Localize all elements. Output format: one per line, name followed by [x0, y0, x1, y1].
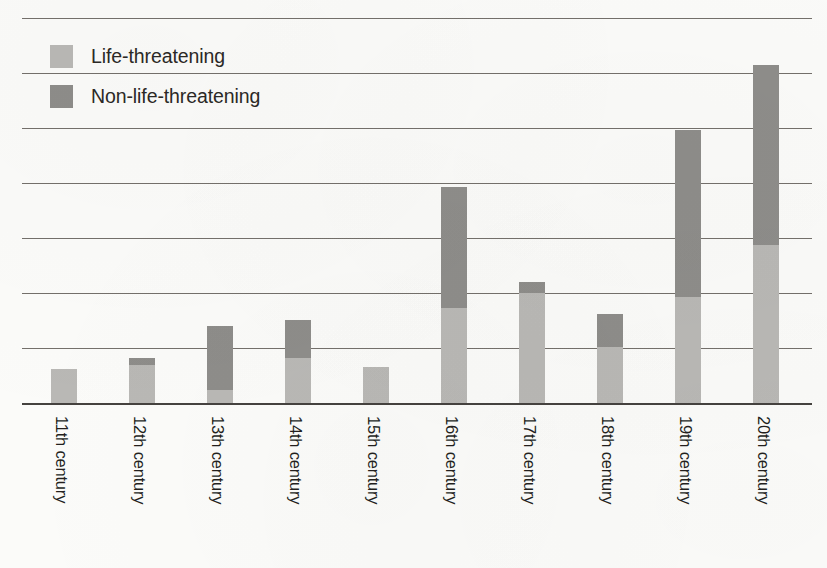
x-tick-label-19th-century: 19th century — [676, 416, 695, 504]
bar-15th-century[interactable] — [363, 367, 389, 403]
legend-item-label: Non-life-threatening — [91, 85, 260, 108]
bar-segment-life-threatening — [51, 369, 77, 403]
bar-segment-life-threatening — [597, 347, 623, 403]
x-tick-label-15th-century: 15th century — [364, 416, 383, 504]
bar-13th-century[interactable] — [207, 326, 233, 403]
x-tick-label-13th-century: 13th century — [208, 416, 227, 504]
bar-17th-century[interactable] — [519, 282, 545, 403]
bar-segment-life-threatening — [441, 308, 467, 403]
gridline — [22, 18, 812, 19]
bar-segment-non-life-threatening — [207, 326, 233, 390]
x-tick-label-16th-century: 16th century — [442, 416, 461, 504]
bar-segment-life-threatening — [675, 297, 701, 403]
x-axis-labels: 11th century12th century13th century14th… — [0, 410, 827, 568]
x-tick-label-18th-century: 18th century — [598, 416, 617, 504]
bar-segment-life-threatening — [753, 245, 779, 403]
bar-segment-non-life-threatening — [129, 358, 155, 365]
bar-segment-non-life-threatening — [753, 65, 779, 245]
legend-swatch-icon — [50, 45, 73, 68]
bar-12th-century[interactable] — [129, 358, 155, 403]
chart-legend: Life-threateningNon-life-threatening — [50, 36, 260, 116]
bar-14th-century[interactable] — [285, 320, 311, 403]
bar-18th-century[interactable] — [597, 314, 623, 403]
bar-segment-non-life-threatening — [597, 314, 623, 347]
x-tick-label-12th-century: 12th century — [130, 416, 149, 504]
x-tick-label-11th-century: 11th century — [52, 416, 71, 503]
stacked-bar-chart: Life-threateningNon-life-threatening 11t… — [0, 0, 827, 568]
bar-16th-century[interactable] — [441, 187, 467, 403]
bar-11th-century[interactable] — [51, 369, 77, 403]
bar-20th-century[interactable] — [753, 65, 779, 403]
legend-swatch-icon — [50, 85, 73, 108]
bar-segment-non-life-threatening — [519, 282, 545, 293]
bar-segment-life-threatening — [207, 390, 233, 403]
bar-19th-century[interactable] — [675, 130, 701, 403]
bar-segment-life-threatening — [129, 365, 155, 403]
bar-segment-life-threatening — [519, 293, 545, 403]
x-axis-baseline — [22, 403, 812, 405]
legend-item-light[interactable]: Life-threatening — [50, 36, 260, 76]
bar-segment-life-threatening — [285, 358, 311, 403]
x-tick-label-14th-century: 14th century — [286, 416, 305, 504]
x-tick-label-17th-century: 17th century — [520, 416, 539, 504]
x-tick-label-20th-century: 20th century — [754, 416, 773, 504]
bar-segment-non-life-threatening — [675, 130, 701, 297]
bar-segment-non-life-threatening — [285, 320, 311, 358]
bar-segment-life-threatening — [363, 367, 389, 403]
legend-item-label: Life-threatening — [91, 45, 225, 68]
bar-segment-non-life-threatening — [441, 187, 467, 308]
legend-item-dark[interactable]: Non-life-threatening — [50, 76, 260, 116]
